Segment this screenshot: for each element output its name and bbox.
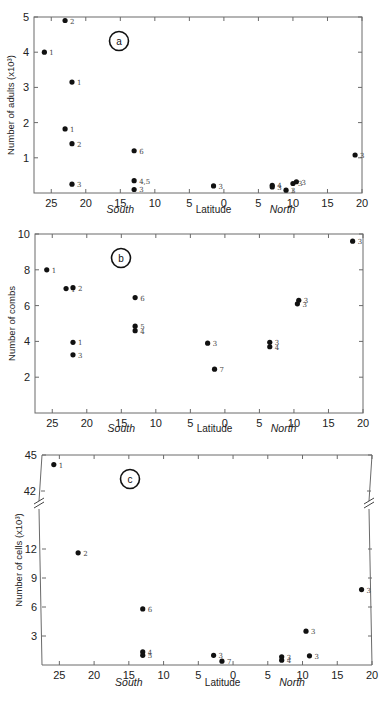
data-point — [205, 341, 210, 346]
data-point — [76, 550, 81, 555]
y-tick-label: 10 — [18, 228, 30, 240]
data-point — [140, 653, 145, 658]
data-point-label: 4 — [275, 344, 280, 352]
north-label: North — [279, 676, 305, 688]
data-point — [267, 340, 272, 345]
y-axis-title: Number of adults (x10³) — [5, 55, 16, 155]
y-tick-label: 12 — [25, 543, 37, 555]
data-point — [70, 340, 75, 345]
x-tick-label: 25 — [45, 197, 57, 209]
data-point — [69, 80, 74, 85]
data-point — [132, 148, 137, 153]
data-point-label: 2 — [70, 18, 74, 26]
data-point-label: 5 — [148, 652, 152, 660]
x-tick-label: 5 — [187, 417, 193, 429]
data-point-label: 1 — [78, 339, 82, 347]
x-tick-label: 5 — [256, 417, 262, 429]
data-point-label: 7 — [220, 366, 224, 374]
y-tick-label: 4 — [23, 46, 29, 58]
data-point — [69, 141, 74, 146]
data-point-label: 3 — [291, 187, 295, 195]
data-point — [211, 183, 216, 188]
y-tick-label: 45 — [25, 449, 37, 461]
y-tick-label: 6 — [24, 300, 30, 312]
data-point-label: 3 — [77, 181, 81, 189]
data-point — [133, 324, 138, 329]
north-label: North — [271, 422, 297, 434]
data-point — [133, 295, 138, 300]
x-tick-label: 20 — [357, 417, 369, 429]
x-tick-label: 20 — [81, 417, 93, 429]
x-tick-label: 20 — [88, 669, 100, 681]
x-tick-label: 15 — [322, 417, 334, 429]
data-point-label: 3 — [367, 587, 371, 595]
x-tick-label: 10 — [149, 197, 161, 209]
south-label: South — [108, 422, 136, 434]
data-point — [42, 50, 47, 55]
data-point — [132, 187, 137, 192]
data-point — [132, 178, 137, 183]
y-tick-label: 5 — [23, 11, 29, 23]
data-point — [359, 587, 364, 592]
x-tick-label: 5 — [265, 669, 271, 681]
data-point — [62, 126, 67, 131]
panel-c: 25201510505101520369124245Number of cell… — [13, 449, 378, 688]
panel-label-letter: b — [118, 253, 124, 264]
data-point — [211, 653, 216, 658]
plot-frame — [35, 234, 363, 413]
data-point-label: 3 — [277, 184, 281, 192]
y-tick-label: 9 — [31, 572, 37, 584]
data-point — [219, 659, 224, 664]
x-tick-label: 15 — [321, 197, 333, 209]
data-point-label: 1 — [59, 462, 63, 470]
y-axis-title: Number of combs — [6, 286, 17, 361]
data-point-label: 2 — [83, 550, 87, 558]
data-point-label: 6 — [139, 148, 144, 156]
data-point — [352, 152, 357, 157]
data-point — [133, 328, 138, 333]
data-point — [279, 658, 284, 663]
data-point-label: 1 — [70, 126, 74, 134]
x-tick-label: 5 — [255, 197, 261, 209]
data-point — [283, 188, 288, 193]
right-frame-upper-line — [369, 455, 372, 501]
y-tick-label: 3 — [23, 81, 29, 93]
y-tick-label: 6 — [31, 601, 37, 613]
panel-b: 25201510505101520246810Number of combsSo… — [6, 228, 369, 434]
data-point — [307, 653, 312, 658]
data-point-label: 6 — [148, 606, 153, 614]
x-tick-label: 20 — [80, 197, 92, 209]
north-label: North — [270, 203, 296, 215]
data-point-label: 3 — [360, 152, 364, 160]
y-axis-lower-line — [39, 509, 42, 665]
data-point-label: 4 — [287, 657, 292, 665]
data-point-label: 3 — [301, 179, 305, 187]
data-point — [296, 298, 301, 303]
x-tick-label: 5 — [186, 197, 192, 209]
data-point — [294, 179, 299, 184]
data-point-label: 2 — [77, 141, 81, 149]
data-point-label: 4,5 — [139, 178, 150, 186]
data-point-label: 4 — [140, 328, 145, 336]
data-point-label: 7 — [227, 658, 231, 666]
y-tick-label: 42 — [24, 485, 36, 497]
data-point — [70, 285, 75, 290]
data-point-label: 1 — [77, 79, 81, 87]
figure-svg: 2520151050510152012345Number of adults (… — [0, 0, 389, 702]
south-label: South — [115, 676, 143, 688]
data-point — [212, 367, 217, 372]
x-tick-label: 20 — [356, 197, 368, 209]
plot-frame — [34, 17, 362, 193]
x-tick-label: 15 — [331, 669, 343, 681]
y-tick-label: 4 — [24, 335, 30, 347]
data-point-label: 1 — [49, 49, 53, 57]
y-tick-label: 8 — [24, 264, 30, 276]
x-tick-label: 25 — [53, 669, 65, 681]
data-point-label: 3 — [213, 340, 217, 348]
data-point — [350, 239, 355, 244]
data-point — [69, 182, 74, 187]
south-label: South — [107, 203, 135, 215]
data-point — [267, 344, 272, 349]
x-tick-label: 10 — [157, 669, 169, 681]
y-axis-upper-line — [39, 455, 42, 501]
